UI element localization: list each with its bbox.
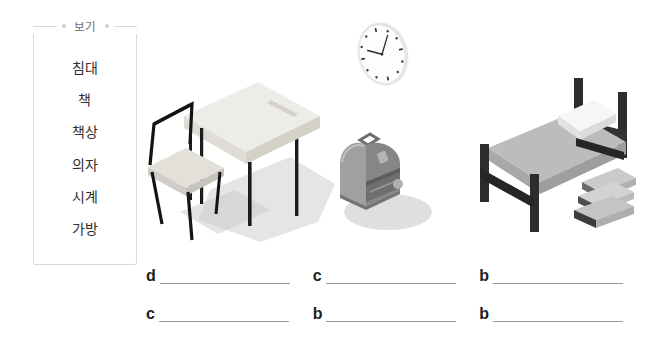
answer-blank-line[interactable] — [326, 283, 456, 284]
answer-grid: d c b c b b — [146, 268, 646, 344]
bed-with-books-illustration — [462, 72, 652, 247]
word-bank-item-3[interactable]: 의자 — [72, 158, 99, 172]
legend-dot-right-icon — [105, 24, 109, 28]
answer-cell-1-3[interactable]: b — [479, 268, 646, 286]
answer-cell-2-1[interactable]: c — [146, 306, 313, 324]
word-bank-item-5[interactable]: 가방 — [72, 222, 99, 236]
word-bank-legend: 보기 — [33, 18, 137, 34]
book-stack-icon — [574, 168, 636, 228]
answer-letter: b — [313, 306, 323, 324]
answer-letter: d — [146, 268, 156, 286]
answer-letter: c — [146, 306, 155, 324]
wall-clock-illustration — [345, 14, 421, 92]
answer-letter: b — [479, 306, 489, 324]
answer-cell-1-1[interactable]: d — [146, 268, 313, 286]
answer-blank-line[interactable] — [160, 283, 290, 284]
word-bank-item-2[interactable]: 책상 — [72, 125, 99, 139]
answer-row-1: d c b — [146, 268, 646, 286]
word-bank-title: 보기 — [71, 18, 100, 34]
answer-blank-line[interactable] — [493, 321, 623, 322]
answer-cell-2-2[interactable]: b — [313, 306, 480, 324]
answer-cell-2-3[interactable]: b — [479, 306, 646, 324]
answer-blank-line[interactable] — [159, 321, 289, 322]
legend-rule-right — [114, 26, 138, 27]
answer-row-2: c b b — [146, 306, 646, 324]
word-bank-box: 침대 책 책상 의자 시계 가방 — [33, 26, 137, 265]
backpack-illustration — [322, 112, 440, 238]
legend-dot-left-icon — [62, 24, 66, 28]
answer-letter: c — [313, 268, 322, 286]
answer-blank-line[interactable] — [493, 283, 623, 284]
desk-and-chair-illustration — [140, 72, 335, 252]
legend-rule-left — [33, 26, 57, 27]
word-bank-item-0[interactable]: 침대 — [72, 61, 99, 75]
worksheet-canvas: 침대 책 책상 의자 시계 가방 보기 — [0, 0, 657, 348]
word-bank-item-4[interactable]: 시계 — [72, 190, 99, 204]
answer-letter: b — [479, 268, 489, 286]
answer-cell-1-2[interactable]: c — [313, 268, 480, 286]
word-bank-item-1[interactable]: 책 — [78, 93, 92, 107]
answer-blank-line[interactable] — [326, 321, 456, 322]
